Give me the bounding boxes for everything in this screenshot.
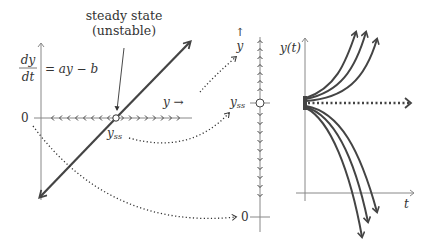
yss-label-mid: yss: [229, 95, 245, 110]
phase-up-arrow-icon: ↑: [235, 26, 244, 39]
connector-positive: [200, 57, 236, 92]
steady-state-point: [113, 115, 119, 121]
growth-curve-3: [306, 39, 377, 101]
growth-curve-2: [306, 32, 366, 99]
decay-curve-3: [306, 108, 362, 237]
mapping-connectors: [33, 57, 236, 218]
t-label: t: [404, 197, 409, 211]
phase-line: ↑ y yss 0: [229, 26, 270, 232]
y-arrow-label: y →: [162, 95, 184, 109]
rate-line-lower: [40, 118, 116, 197]
yss-label-left: yss: [106, 126, 122, 141]
yt-label: y(t): [279, 41, 301, 55]
diagram-canvas: steady state (unstable) dy dt = ay − b 0…: [0, 0, 434, 251]
solution-curves: y(t) t: [279, 32, 414, 237]
rate-plot: steady state (unstable) dy dt = ay − b 0…: [19, 8, 192, 200]
steady-state-pointer: [117, 48, 124, 110]
phase-y-label: y: [236, 39, 244, 53]
zero-label-mid: 0: [241, 210, 249, 224]
dydt-numerator: dy: [21, 53, 36, 67]
equation-label: = ay − b: [45, 62, 98, 76]
unstable-label: (unstable): [92, 23, 156, 38]
pointer-arrowhead-icon: [115, 106, 120, 111]
steady-state-label: steady state: [86, 8, 163, 23]
zero-label-left: 0: [21, 111, 29, 125]
dydt-denominator: dt: [22, 70, 35, 84]
phase-steady-state-point: [256, 99, 264, 107]
